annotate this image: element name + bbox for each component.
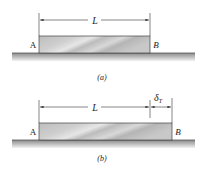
expansion-label: δT <box>154 92 163 104</box>
end-label-a-right: B <box>153 40 159 50</box>
end-label-a-left: A <box>30 40 37 50</box>
caption-b: (b) <box>97 154 107 163</box>
length-label-b: L <box>91 102 98 113</box>
end-label-b-left: A <box>30 127 37 137</box>
caption-a: (a) <box>97 73 107 82</box>
ground-a <box>12 53 195 61</box>
figure-a: L A B (a) <box>12 13 195 82</box>
ground-b <box>12 140 195 148</box>
length-label-a: L <box>91 15 98 26</box>
bar-b <box>39 123 172 140</box>
bar-a <box>39 36 150 53</box>
end-label-b-right: B <box>175 127 181 137</box>
thermal-expansion-diagram: L A B (a) L δT A B (b) <box>0 0 203 174</box>
figure-b: L δT A B (b) <box>12 92 195 163</box>
